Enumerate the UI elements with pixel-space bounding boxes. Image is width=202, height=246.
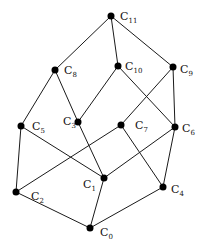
node-c5 (18, 123, 25, 130)
edge-c11-c10 (111, 16, 118, 66)
hasse-diagram: C0C1C2C3C4C5C6C7C8C9C10C11 (0, 0, 202, 246)
node-c6 (172, 124, 179, 131)
label-c2: C2 (31, 190, 44, 205)
edge-c7-c2 (16, 125, 121, 192)
label-c8: C8 (64, 64, 77, 79)
node-c4 (160, 184, 167, 191)
node-c0 (87, 225, 94, 232)
node-c10 (115, 63, 122, 70)
label-c3: C3 (63, 115, 76, 130)
label-c5: C5 (32, 120, 45, 135)
label-c4: C4 (171, 183, 184, 198)
edge-c7-c4 (121, 125, 163, 187)
label-c9: C9 (180, 63, 193, 78)
edge-c9-c6 (173, 67, 175, 127)
label-c7: C7 (135, 119, 148, 134)
node-c11 (108, 13, 115, 20)
edge-c6-c1 (104, 127, 175, 178)
label-c11: C11 (120, 10, 137, 25)
label-c6: C6 (182, 122, 195, 137)
label-c0: C0 (100, 226, 113, 241)
label-c1: C1 (83, 178, 96, 193)
edge-c2-c0 (16, 192, 90, 228)
edge-c11-c9 (111, 16, 173, 67)
edge-c4-c0 (90, 187, 163, 228)
edge-c8-c5 (21, 70, 55, 126)
node-c2 (13, 189, 20, 196)
node-c8 (52, 67, 59, 74)
edge-c6-c4 (163, 127, 175, 187)
label-c10: C10 (125, 60, 142, 75)
node-c9 (170, 64, 177, 71)
labels-layer: C0C1C2C3C4C5C6C7C8C9C10C11 (31, 10, 195, 241)
node-c7 (118, 122, 125, 129)
edge-c5-c2 (16, 126, 21, 192)
edge-c10-c3 (78, 66, 118, 122)
edge-c11-c8 (55, 16, 111, 70)
node-c1 (101, 175, 108, 182)
